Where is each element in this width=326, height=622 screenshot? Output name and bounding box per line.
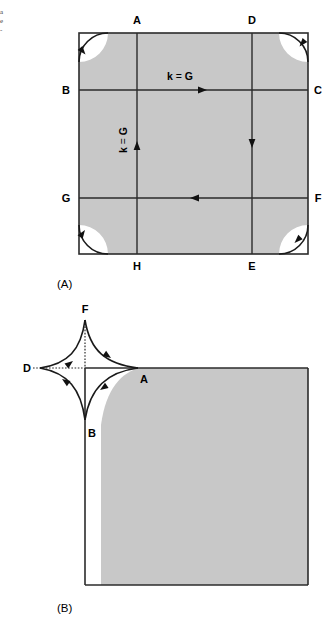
panel-a-vertex-label-F: F <box>315 192 322 204</box>
panel-a-arrowhead-top-right <box>297 38 307 48</box>
panel-b-vertex-label-B: B <box>88 427 96 439</box>
panel-b-astroid-arc-top-right <box>85 320 138 368</box>
kg-h-g: G <box>185 70 193 82</box>
panel-b-arrowhead-bottom-right <box>98 383 108 393</box>
panel-b-zone-fill <box>101 368 308 585</box>
panel-a-vertex-label-C: C <box>314 84 322 96</box>
panel-a-vertex-label-B: B <box>62 84 70 96</box>
figure-root: A a e - <box>0 0 326 622</box>
panel-b-vertex-label-D: D <box>23 362 31 374</box>
panel-b-astroid-arc-top-left <box>40 320 85 368</box>
panel-b-vertex-label-F: F <box>82 303 89 315</box>
panel-a-caption: (A) <box>57 278 73 290</box>
panel-a-vertex-label-G: G <box>62 192 71 204</box>
panel-b-vertex-label-A: A <box>140 373 148 385</box>
kg-v-g: G <box>117 127 129 135</box>
panel-a: k = G k = G A D B C G F H E (A) <box>57 14 322 290</box>
kg-v-eq: = <box>117 135 129 147</box>
panel-a-label-k-equals-g-vertical: k = G <box>117 127 129 153</box>
panel-a-vertex-label-E: E <box>248 260 255 272</box>
panel-a-vertex-label-A: A <box>133 14 141 26</box>
kg-h-eq: = <box>173 70 185 82</box>
panel-a-vertex-label-D: D <box>248 14 256 26</box>
panel-a-label-k-equals-g-horizontal: k = G <box>167 70 193 82</box>
panel-b-astroid-arc-bottom-left <box>40 368 85 420</box>
panel-a-vertex-label-H: H <box>133 260 141 272</box>
panel-a-zone-fill <box>79 33 308 254</box>
panel-b-caption: (B) <box>57 602 73 614</box>
panel-b: F D A B (B) <box>23 303 308 614</box>
brillouin-zone-figure: k = G k = G A D B C G F H E (A) <box>0 0 326 622</box>
panel-b-arrowhead-top-left <box>65 358 75 368</box>
